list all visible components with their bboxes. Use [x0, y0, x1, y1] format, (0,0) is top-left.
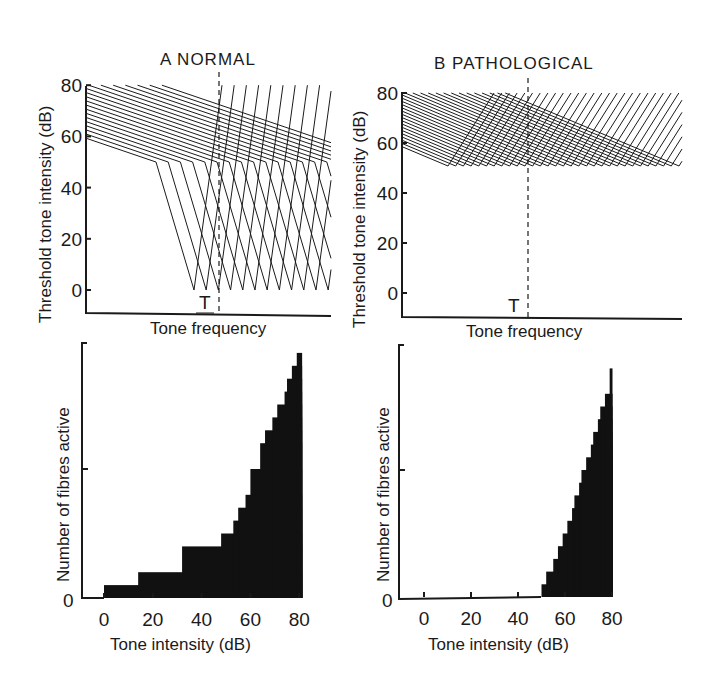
tuning-curve-high-side — [625, 93, 671, 166]
tuning-curve-low-side — [180, 162, 218, 290]
y-tick-label: 20 — [377, 233, 398, 254]
y-tick-label: 0 — [387, 283, 398, 304]
tuning-curve-high-side — [231, 85, 259, 290]
tuning-curve-tail — [150, 85, 331, 147]
y-tick-label: 20 — [61, 229, 82, 250]
x-tick-label: 40 — [507, 608, 528, 629]
tuning-curve-high-side — [564, 93, 610, 166]
panel-b-x-label: Tone frequency — [466, 322, 583, 341]
panel-a-fibres-chart: 0 020406080 Tone intensity (dB) Number o… — [54, 343, 310, 654]
panel-a-t-label: T — [199, 292, 211, 313]
tuning-curve-high-side — [292, 85, 320, 290]
tuning-curve-low-side — [290, 162, 328, 290]
fibre-count-step — [610, 368, 613, 597]
tuning-curve-high-side — [267, 85, 295, 290]
panel-b-y-zero: 0 — [382, 590, 393, 611]
panel-a-tuning-curves — [86, 85, 331, 290]
tuning-curve-high-side — [556, 93, 602, 166]
y-tick-label: 80 — [377, 83, 398, 104]
panel-b-threshold-chart: B PATHOLOGICAL 020406080 T Tone frequenc… — [350, 54, 682, 341]
panel-a-x-label: Tone frequency — [150, 319, 267, 338]
panel-a-x-ticks: 020406080 — [99, 593, 310, 630]
tuning-curve-high-side — [255, 85, 283, 290]
panel-a-title: A NORMAL — [160, 50, 256, 69]
tuning-curve-low-side — [254, 162, 292, 290]
tuning-curve-high-side — [206, 85, 234, 290]
tuning-curve-tail — [86, 105, 254, 162]
x-tick-label: 0 — [419, 608, 430, 629]
tuning-curve-high-side — [194, 85, 222, 290]
panel-a-bottom-y-label: Number of fibres active — [54, 407, 73, 582]
x-tick-label: 80 — [289, 609, 310, 630]
tuning-curve-tail — [402, 98, 564, 166]
tuning-curve-high-side — [540, 93, 586, 166]
tuning-curve-low-side — [327, 162, 331, 176]
x-tick-label: 0 — [99, 609, 110, 630]
x-tick-label: 20 — [142, 609, 163, 630]
y-tick-label: 60 — [61, 126, 82, 147]
tuning-curve-tail — [86, 88, 302, 162]
tuning-curve-low-side — [241, 162, 279, 290]
panel-b-t-label: T — [508, 295, 520, 316]
panel-a-bottom-axes — [82, 343, 104, 598]
panel-a-y-label: Threshold tone intensity (dB) — [36, 106, 55, 323]
tuning-curve-high-side — [243, 85, 271, 290]
panel-a-threshold-chart: A NORMAL 020406080 T Tone frequency Thre… — [36, 50, 331, 338]
tuning-curve-low-side — [278, 162, 316, 290]
tuning-curve-tail — [402, 140, 463, 166]
panel-b-fibre-bars — [542, 368, 613, 597]
panel-b-bottom-y-label: Number of fibres active — [374, 407, 393, 582]
tuning-curve-low-side — [156, 162, 194, 290]
tuning-curve-low-side — [205, 162, 243, 290]
y-tick-label: 40 — [377, 183, 398, 204]
tuning-curve-tail — [86, 117, 217, 162]
tuning-curve-tail — [162, 85, 331, 142]
x-tick-label: 20 — [460, 608, 481, 629]
tuning-curve-high-side — [679, 161, 682, 166]
tuning-curve-high-side — [617, 93, 663, 166]
y-tick-label: 80 — [61, 75, 82, 96]
panel-a-fibre-bars — [104, 353, 302, 598]
x-tick-label: 60 — [554, 608, 575, 629]
tuning-curve-high-side — [664, 137, 682, 166]
tuning-curve-tail — [402, 118, 517, 166]
tuning-curve-high-side — [633, 93, 679, 166]
x-tick-label: 40 — [191, 609, 212, 630]
figure: A NORMAL 020406080 T Tone frequency Thre… — [0, 0, 711, 680]
tuning-curve-high-side — [548, 93, 594, 166]
x-tick-label: 80 — [601, 608, 622, 629]
tuning-curve-tail — [86, 97, 278, 162]
tuning-curve-tail — [113, 85, 331, 159]
tuning-curve-high-side — [279, 85, 307, 290]
fibre-count-step — [297, 353, 302, 598]
tuning-curve-high-side — [594, 93, 640, 166]
panel-b-bottom-x-label: Tone intensity (dB) — [428, 635, 569, 654]
panel-b-y-label: Threshold tone intensity (dB) — [350, 111, 369, 328]
tuning-curve-high-side — [328, 270, 331, 290]
tuning-curve-low-side — [266, 162, 304, 290]
panel-b-bottom-axes — [399, 345, 541, 599]
x-tick-label: 60 — [240, 609, 261, 630]
tuning-curve-tail — [402, 105, 548, 166]
panel-b-fibres-chart: 0 020406080 Tone intensity (dB) Number o… — [374, 345, 623, 654]
tuning-curve-tail — [86, 122, 205, 162]
tuning-curve-high-side — [579, 93, 625, 166]
panel-a-y-zero: 0 — [63, 590, 74, 611]
tuning-curve-high-side — [571, 93, 617, 166]
tuning-curve-high-side — [304, 91, 331, 290]
tuning-curve-high-side — [587, 93, 633, 166]
panel-b-title: B PATHOLOGICAL — [434, 54, 594, 73]
panel-a-axes — [86, 86, 331, 316]
tuning-curve-high-side — [218, 85, 246, 290]
tuning-curve-tail — [86, 130, 180, 162]
tuning-curve-high-side — [610, 93, 656, 166]
y-tick-label: 0 — [71, 280, 82, 301]
tuning-curve-tail — [86, 101, 266, 162]
tuning-curve-high-side — [533, 93, 579, 166]
tuning-curve-low-side — [193, 162, 231, 290]
tuning-curve-tail — [86, 134, 168, 162]
y-tick-label: 60 — [377, 133, 398, 154]
tuning-curve-tail — [402, 127, 494, 166]
tuning-curve-tail — [86, 93, 290, 162]
panel-a-bottom-x-label: Tone intensity (dB) — [110, 635, 251, 654]
